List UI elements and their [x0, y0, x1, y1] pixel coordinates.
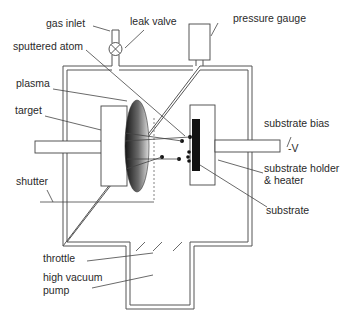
label-leak-valve: leak valve [130, 15, 177, 27]
label-plasma: plasma [16, 77, 50, 89]
label-target: target [15, 104, 42, 116]
label-bias-value: -V [288, 142, 299, 154]
leader-lines [45, 23, 291, 288]
label-heater: & heater [264, 174, 304, 186]
pressure-gauge [189, 24, 210, 66]
target-rod [35, 141, 102, 153]
label-substrate-holder: substrate holder [264, 162, 340, 174]
chamber-inner-wall [67, 70, 248, 305]
label-high-vacuum: high vacuum [43, 271, 103, 283]
label-throttle: throttle [43, 252, 75, 264]
target [101, 106, 127, 186]
substrate [192, 119, 200, 171]
target-assembly [35, 106, 127, 186]
label-sputtered-atom: sputtered atom [13, 40, 83, 52]
plasma [125, 100, 149, 192]
leak-valve-icon [109, 43, 122, 56]
label-substrate-bias: substrate bias [264, 117, 329, 129]
label-pump: pump [43, 284, 69, 296]
sputtering-diagram: gas inlet leak valve pressure gauge sput… [0, 0, 357, 317]
throttle [136, 242, 182, 251]
label-shutter: shutter [16, 175, 49, 187]
label-substrate: substrate [266, 204, 309, 216]
label-gas-inlet: gas inlet [46, 17, 85, 29]
substrate-rod [215, 140, 280, 152]
label-pressure-gauge: pressure gauge [233, 12, 306, 24]
